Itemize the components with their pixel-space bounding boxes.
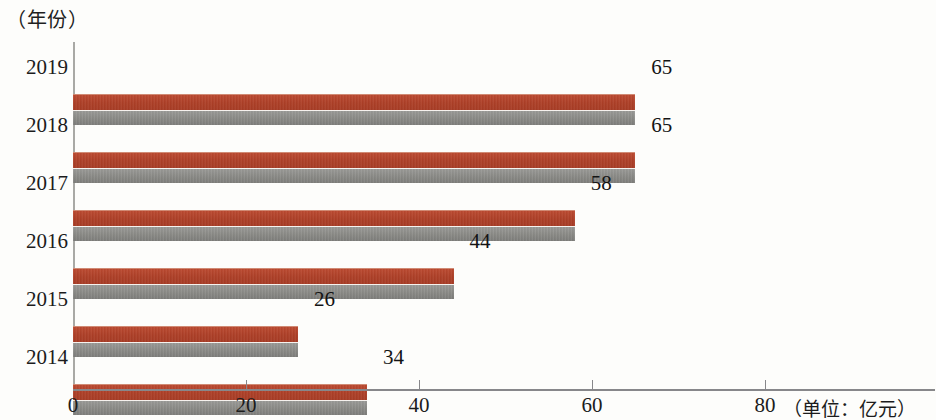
bar-segment-gray [73,110,635,125]
horizontal-bar-chart: （年份） 020406080 201920182017201620152014 … [0,0,936,420]
x-tick-label-40: 40 [409,393,430,418]
x-tick-40 [419,380,420,390]
bar-segment-red [73,210,575,226]
value-label-2016: 44 [470,229,491,254]
bar-segment-red [73,152,635,168]
bar-segment-red [73,384,367,400]
x-tick-60 [592,380,593,390]
bar-segment-gray [73,400,367,415]
bar-segment-gray [73,226,575,241]
bar-2019 [73,94,635,124]
bar-segment-red [73,94,635,110]
x-tick-label-80: 80 [755,393,776,418]
x-tick-label-60: 60 [582,393,603,418]
value-label-2019: 65 [651,55,672,80]
bar-segment-gray [73,168,635,183]
y-axis-title: （年份） [6,4,88,33]
x-tick-label-20: 20 [236,393,257,418]
plot-area [73,42,936,390]
x-tick-20 [246,380,247,390]
bar-2017 [73,210,575,240]
value-label-2014: 34 [383,345,404,370]
x-axis-line [73,389,935,391]
x-tick-80 [765,380,766,390]
bar-segment-red [73,268,454,284]
category-label-2019: 2019 [8,55,68,80]
bar-2018 [73,152,635,182]
category-label-2018: 2018 [8,113,68,138]
bar-2016 [73,268,454,298]
x-axis-unit-label: （单位：亿元） [783,394,916,420]
category-label-2015: 2015 [8,287,68,312]
value-label-2015: 26 [314,287,335,312]
category-label-2016: 2016 [8,229,68,254]
bar-segment-gray [73,284,454,299]
bar-segment-red [73,326,298,342]
value-label-2017: 58 [591,171,612,196]
bar-segment-gray [73,342,298,357]
x-tick-label-0: 0 [68,393,79,418]
value-label-2018: 65 [651,113,672,138]
bar-2015 [73,326,298,356]
category-label-2014: 2014 [8,345,68,370]
category-label-2017: 2017 [8,171,68,196]
